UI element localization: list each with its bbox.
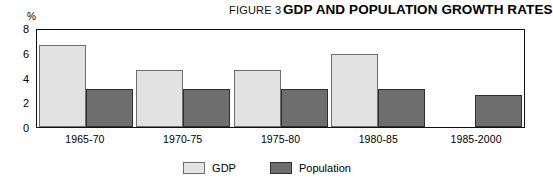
- legend-label: Population: [299, 162, 351, 174]
- y-tick-8: 8: [23, 24, 29, 35]
- bar-gdp: [234, 70, 281, 127]
- y-tick-2: 2: [23, 98, 29, 109]
- bar-pop: [378, 89, 425, 127]
- legend-item-gdp: GDP: [183, 162, 236, 174]
- bar-gdp: [331, 54, 378, 127]
- figure-header: FIGURE 3 GDP AND POPULATION GROWTH RATES: [0, 0, 534, 22]
- plot-area: [36, 29, 525, 128]
- bar-groups: [37, 30, 524, 127]
- bar-group: [37, 30, 134, 127]
- x-label: 1965-70: [36, 133, 134, 149]
- bar-pop: [281, 89, 328, 127]
- bar-pop: [183, 89, 230, 127]
- y-tick-0: 0: [23, 123, 29, 134]
- bar-gdp: [39, 45, 86, 127]
- x-label: 1975-80: [232, 133, 330, 149]
- y-axis-unit: %: [27, 11, 36, 22]
- legend-label: GDP: [212, 162, 236, 174]
- y-axis-ticks: 86420: [0, 29, 34, 128]
- y-tick-4: 4: [23, 73, 29, 84]
- chart-legend: GDPPopulation: [0, 158, 534, 178]
- bar-pop: [475, 95, 522, 127]
- bar-group: [329, 30, 426, 127]
- x-axis-labels: 1965-701970-751975-801980-851985-2000: [36, 133, 525, 149]
- bar-group: [232, 30, 329, 127]
- bar-gdp: [136, 70, 183, 127]
- bar-pop: [86, 89, 133, 127]
- bar-group: [134, 30, 231, 127]
- figure-number: FIGURE 3: [229, 4, 281, 16]
- x-label: 1985-2000: [427, 133, 525, 149]
- x-label: 1970-75: [134, 133, 232, 149]
- bar-group: [427, 30, 524, 127]
- x-label: 1980-85: [329, 133, 427, 149]
- legend-item-population: Population: [270, 162, 351, 174]
- gdp-swatch: [183, 162, 205, 174]
- figure-title: GDP AND POPULATION GROWTH RATES: [283, 2, 553, 17]
- y-tick-6: 6: [23, 48, 29, 59]
- population-swatch: [270, 162, 292, 174]
